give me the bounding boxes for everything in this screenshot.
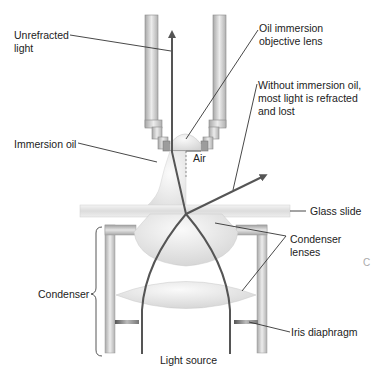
leader-iris-diaphragm [249,322,290,332]
leader-without-oil [233,84,257,190]
label-light-source: Light source [160,354,217,366]
iris-diaphragm-left [115,320,139,324]
label-without-oil: Without immersion oil, most light is ref… [258,79,364,117]
label-immersion-oil: Immersion oil [14,138,76,150]
objective-housing-right [201,15,226,151]
label-glass-slide: Glass slide [310,205,362,217]
condenser-housing-left [105,225,136,353]
condenser-bracket [91,227,102,356]
objective-housing-left [145,15,170,151]
label-air: Air [193,152,206,164]
label-condenser: Condenser [38,288,90,300]
label-condenser-lenses: Condenser lenses [290,233,344,258]
label-iris-diaphragm: Iris diaphragm [291,326,358,338]
condenser-upper-lens [134,214,238,266]
label-oil-immersion-objective: Oil immersion objective lens [259,22,326,47]
oil-immersion-diagram: Unrefracted light Oil immersion objectiv… [0,0,372,375]
immersion-oil-drop [146,151,186,207]
objective-front-lens [170,134,201,151]
margin-mark: C [363,257,370,268]
leader-immersion-oil [78,143,157,162]
condenser-lower-lens [116,282,256,309]
label-unrefracted-light: Unrefracted light [14,29,72,54]
tube-fade [140,10,232,24]
condenser-housing-right [236,225,267,353]
